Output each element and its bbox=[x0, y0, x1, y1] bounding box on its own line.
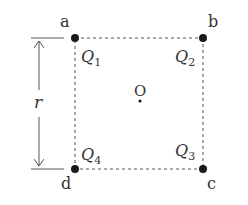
charge-square-diagram: r a b c d Q1 Q2 Q3 Q4 O bbox=[0, 0, 248, 205]
corner-label-a: a bbox=[60, 12, 70, 31]
charge-label-q1: Q1 bbox=[81, 47, 101, 69]
charge-point-c bbox=[199, 165, 207, 173]
charge-point-b bbox=[199, 34, 207, 42]
dimension-label: r bbox=[34, 92, 43, 112]
charge-point-a bbox=[71, 34, 79, 42]
charge-label-q2: Q2 bbox=[175, 47, 195, 69]
center-label: O bbox=[134, 82, 146, 100]
charge-point-d bbox=[71, 165, 79, 173]
corner-label-d: d bbox=[61, 174, 71, 193]
corner-label-b: b bbox=[208, 12, 218, 31]
charge-label-q3: Q3 bbox=[175, 141, 195, 163]
charge-label-q4: Q4 bbox=[81, 145, 101, 167]
corner-label-c: c bbox=[207, 174, 216, 193]
